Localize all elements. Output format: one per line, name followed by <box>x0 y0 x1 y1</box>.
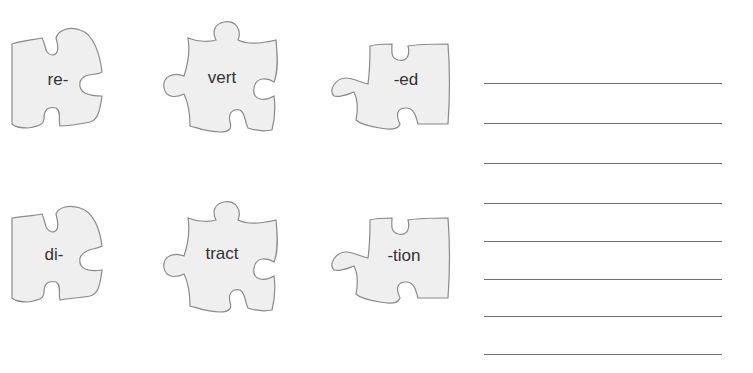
puzzle-piece-suffix-ed[interactable]: -ed <box>320 20 460 140</box>
answer-line-7[interactable] <box>484 316 722 317</box>
answer-line-2[interactable] <box>484 123 722 124</box>
piece-label: di- <box>45 245 64 265</box>
puzzle-piece-root-tract[interactable]: tract <box>150 190 290 330</box>
puzzle-piece-shape-icon <box>320 20 460 140</box>
puzzle-piece-prefix-di[interactable]: di- <box>0 190 120 330</box>
piece-label: vert <box>208 68 236 88</box>
answer-line-3[interactable] <box>484 163 722 164</box>
puzzle-piece-suffix-tion[interactable]: -tion <box>320 200 460 330</box>
piece-label: tract <box>205 244 238 264</box>
piece-label: -ed <box>394 70 419 90</box>
piece-label: re- <box>48 70 69 90</box>
puzzle-piece-prefix-re[interactable]: re- <box>0 0 120 140</box>
answer-line-5[interactable] <box>484 241 722 242</box>
piece-label: -tion <box>387 246 420 266</box>
puzzle-piece-root-vert[interactable]: vert <box>150 10 290 140</box>
answer-line-8[interactable] <box>484 354 722 355</box>
answer-line-6[interactable] <box>484 279 722 280</box>
answer-line-4[interactable] <box>484 203 722 204</box>
answer-line-1[interactable] <box>484 83 722 84</box>
